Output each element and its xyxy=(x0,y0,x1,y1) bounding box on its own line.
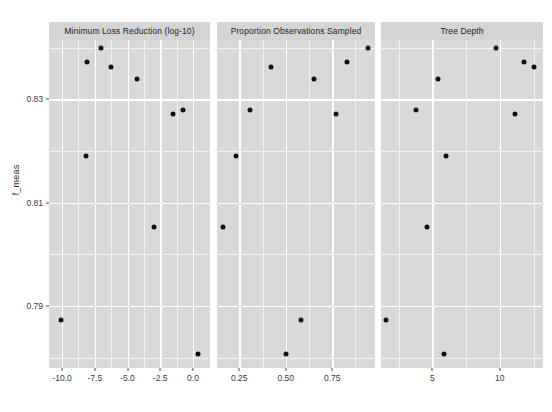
gridline-minor-horizontal xyxy=(217,358,375,359)
gridline-minor-vertical xyxy=(144,40,145,368)
gridline-major-horizontal xyxy=(217,203,375,204)
gridline-minor-vertical xyxy=(534,40,535,368)
x-tick-mark xyxy=(192,368,193,371)
x-tick-label: -10.0 xyxy=(52,373,71,383)
gridline-minor-horizontal xyxy=(381,48,543,49)
panel-plot-area xyxy=(217,40,375,368)
facet-strip: Minimum Loss Reduction (log-10) xyxy=(49,22,210,40)
y-tick-label: 0.81 xyxy=(9,198,43,208)
gridline-minor-vertical xyxy=(263,40,264,368)
gridline-major-horizontal xyxy=(49,203,210,204)
data-point xyxy=(435,76,440,81)
x-tick-label: 10 xyxy=(495,373,504,383)
data-point xyxy=(99,45,104,50)
facet-scatter-figure: f_meas 0.790.810.83 Minimum Loss Reducti… xyxy=(0,0,552,412)
gridline-minor-horizontal xyxy=(217,151,375,152)
gridline-minor-horizontal xyxy=(381,358,543,359)
x-tick-mark xyxy=(62,368,63,371)
data-point xyxy=(493,45,498,50)
data-point xyxy=(414,107,419,112)
gridline-major-vertical xyxy=(432,40,433,368)
x-tick-mark xyxy=(239,368,240,371)
x-tick-label: 0.75 xyxy=(324,373,341,383)
x-tick-mark xyxy=(432,368,433,371)
y-tick-label: 0.79 xyxy=(9,301,43,311)
data-point xyxy=(83,154,88,159)
gridline-major-vertical xyxy=(95,40,96,368)
gridline-minor-vertical xyxy=(177,40,178,368)
data-point xyxy=(443,154,448,159)
gridline-major-vertical xyxy=(128,40,129,368)
x-tick-label: -7.5 xyxy=(87,373,102,383)
x-tick-mark xyxy=(94,368,95,371)
data-point xyxy=(333,111,338,116)
data-point xyxy=(442,351,447,356)
data-point xyxy=(365,45,370,50)
panel-plot-area xyxy=(49,40,210,368)
data-point xyxy=(298,317,303,322)
y-tick-label: 0.83 xyxy=(9,94,43,104)
facet-strip: Tree Depth xyxy=(381,22,543,40)
gridline-minor-horizontal xyxy=(49,151,210,152)
data-point xyxy=(220,224,225,229)
x-tick-label: -5.0 xyxy=(120,373,135,383)
gridline-major-vertical xyxy=(500,40,501,368)
data-point xyxy=(196,351,201,356)
gridline-minor-vertical xyxy=(399,40,400,368)
gridline-minor-horizontal xyxy=(49,254,210,255)
data-point xyxy=(248,107,253,112)
data-point xyxy=(424,224,429,229)
gridline-major-vertical xyxy=(286,40,287,368)
x-tick-mark xyxy=(499,368,500,371)
gridline-major-horizontal xyxy=(381,203,543,204)
gridline-major-horizontal xyxy=(381,306,543,307)
data-point xyxy=(311,76,316,81)
x-tick-label: 5 xyxy=(430,373,435,383)
data-point xyxy=(58,317,63,322)
data-point xyxy=(522,60,527,65)
data-point xyxy=(233,154,238,159)
gridline-major-vertical xyxy=(193,40,194,368)
gridline-minor-vertical xyxy=(466,40,467,368)
data-point xyxy=(531,65,536,70)
panel-plot-area xyxy=(381,40,543,368)
gridline-minor-horizontal xyxy=(217,48,375,49)
data-point xyxy=(108,65,113,70)
data-point xyxy=(84,60,89,65)
x-tick-label: -2.5 xyxy=(153,373,168,383)
data-point xyxy=(384,317,389,322)
x-tick-mark xyxy=(160,368,161,371)
x-tick-label: 0.0 xyxy=(187,373,199,383)
data-point xyxy=(171,111,176,116)
facet-strip: Proportion Observations Sampled xyxy=(217,22,375,40)
data-point xyxy=(268,65,273,70)
gridline-minor-horizontal xyxy=(49,48,210,49)
gridline-major-horizontal xyxy=(381,99,543,100)
data-point xyxy=(345,60,350,65)
gridline-major-horizontal xyxy=(49,99,210,100)
data-point xyxy=(512,111,517,116)
gridline-minor-vertical xyxy=(355,40,356,368)
x-tick-mark xyxy=(127,368,128,371)
x-tick-label: 0.25 xyxy=(231,373,248,383)
gridline-major-vertical xyxy=(160,40,161,368)
data-point xyxy=(134,76,139,81)
data-point xyxy=(283,351,288,356)
facet-strip-label: Proportion Observations Sampled xyxy=(231,26,362,36)
gridline-minor-horizontal xyxy=(49,358,210,359)
gridline-major-horizontal xyxy=(217,99,375,100)
x-tick-mark xyxy=(285,368,286,371)
x-tick-label: 0.50 xyxy=(277,373,294,383)
gridline-major-horizontal xyxy=(217,306,375,307)
gridline-minor-horizontal xyxy=(381,254,543,255)
gridline-major-vertical xyxy=(239,40,240,368)
gridline-major-horizontal xyxy=(49,306,210,307)
facet-strip-label: Minimum Loss Reduction (log-10) xyxy=(64,26,194,36)
gridline-major-vertical xyxy=(332,40,333,368)
gridline-minor-horizontal xyxy=(381,151,543,152)
gridline-minor-vertical xyxy=(309,40,310,368)
gridline-minor-vertical xyxy=(111,40,112,368)
data-point xyxy=(151,224,156,229)
facet-strip-label: Tree Depth xyxy=(440,26,483,36)
gridline-minor-horizontal xyxy=(217,254,375,255)
